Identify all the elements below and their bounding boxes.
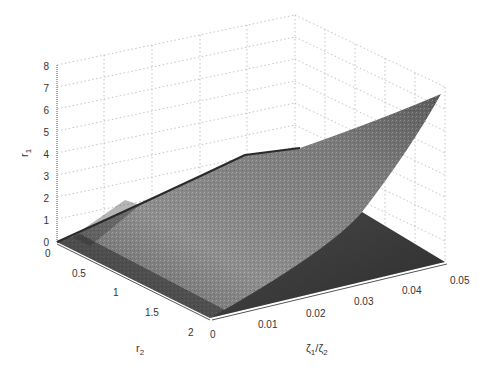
- svg-text:0.04: 0.04: [402, 285, 422, 296]
- svg-text:3: 3: [43, 171, 49, 182]
- svg-text:5: 5: [43, 127, 49, 138]
- z-axis-label: r1: [18, 148, 33, 157]
- svg-text:4: 4: [43, 149, 49, 160]
- svg-text:2: 2: [43, 193, 49, 204]
- svg-text:0.03: 0.03: [354, 296, 374, 307]
- surface-plot: 0 1 2 3 4 5 6 7 8 0 0.5 1 1.5 2 0 0.01 0…: [0, 0, 494, 376]
- svg-text:0: 0: [45, 248, 51, 259]
- svg-text:8: 8: [43, 61, 49, 72]
- r2-axis-label: r2: [136, 342, 145, 357]
- svg-text:7: 7: [43, 83, 49, 94]
- z-axis-ticks: 0 1 2 3 4 5 6 7 8: [43, 61, 49, 248]
- svg-text:1: 1: [113, 287, 119, 298]
- svg-text:2: 2: [188, 327, 194, 338]
- svg-text:0: 0: [43, 237, 49, 248]
- ratio-axis-label: ζ1/ζ2: [306, 342, 328, 357]
- svg-text:0.5: 0.5: [72, 268, 86, 279]
- svg-text:0: 0: [210, 329, 216, 340]
- svg-text:0.01: 0.01: [258, 319, 278, 330]
- svg-text:1.5: 1.5: [145, 307, 159, 318]
- svg-text:0.02: 0.02: [306, 308, 326, 319]
- svg-text:1: 1: [43, 215, 49, 226]
- svg-text:6: 6: [43, 105, 49, 116]
- svg-text:0.05: 0.05: [450, 275, 470, 286]
